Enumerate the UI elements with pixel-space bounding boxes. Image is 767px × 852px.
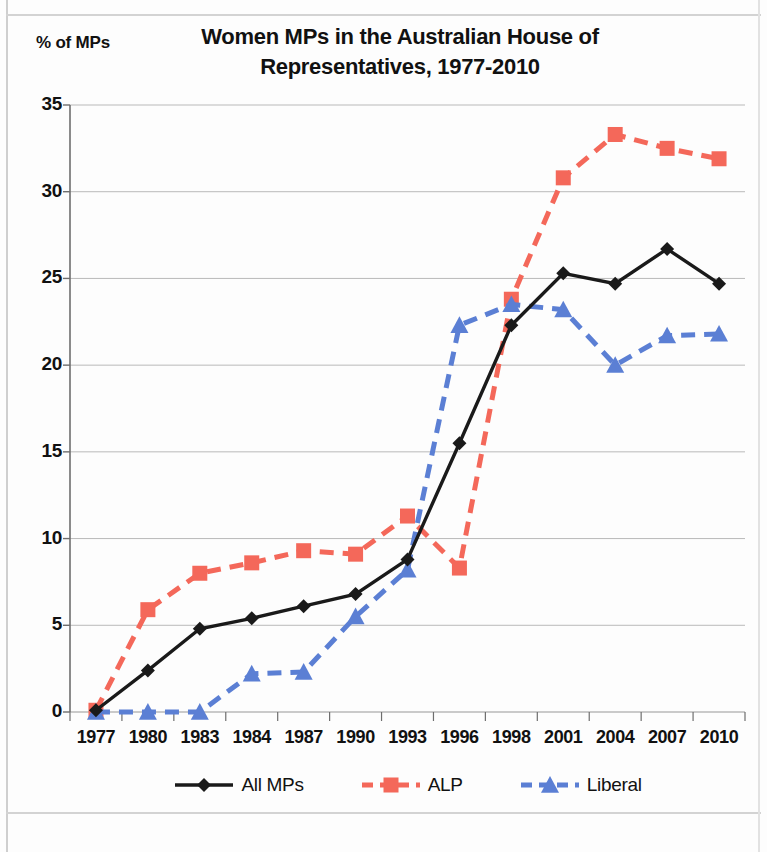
data-point-marker [712, 151, 727, 166]
y-axis-tick-label: 25 [18, 266, 62, 288]
series-line [96, 249, 719, 710]
y-axis-tick-label: 15 [18, 440, 62, 462]
data-point-marker [658, 327, 676, 344]
series-liberal [87, 295, 728, 719]
data-point-marker [197, 778, 211, 792]
data-point-marker [608, 127, 623, 142]
y-axis-tick-label: 30 [18, 180, 62, 202]
legend-swatch-square-icon [360, 774, 422, 796]
legend-swatch-diamond-icon [173, 774, 235, 796]
series-alp [88, 127, 726, 718]
legend-swatch-triangle-icon [519, 774, 581, 796]
chart-page: % of MPs Women MPs in the Australian Hou… [0, 0, 767, 852]
legend-label: All MPs [241, 774, 303, 796]
data-point-marker [192, 566, 207, 581]
data-point-marker [556, 170, 571, 185]
legend-label: Liberal [587, 774, 642, 796]
series-all-mps [89, 242, 726, 717]
data-point-marker [348, 547, 363, 562]
data-point-marker [244, 555, 259, 570]
legend-item-alp[interactable]: ALP [360, 774, 463, 796]
page-border-right [758, 0, 760, 852]
page-border-bottom [6, 812, 761, 814]
data-point-marker [297, 599, 311, 613]
data-point-marker [296, 543, 311, 558]
page-border-top [6, 14, 761, 16]
data-point-marker [452, 436, 466, 450]
data-point-marker [383, 778, 398, 793]
y-axis-tick-label: 0 [18, 700, 62, 722]
chart-canvas [70, 105, 745, 712]
y-axis-tick-labels: 05101520253035 [12, 105, 62, 712]
axes [63, 105, 745, 721]
x-axis-tick-labels: 1977198019831984198719901993199619982001… [70, 727, 745, 757]
y-axis-tick-label: 35 [18, 93, 62, 115]
series-line [96, 134, 719, 710]
chart-title-line-2: Representatives, 1977-2010 [120, 52, 680, 82]
legend-item-all-mps[interactable]: All MPs [173, 774, 303, 796]
data-point-marker [245, 611, 259, 625]
y-axis-tick-label: 20 [18, 353, 62, 375]
data-point-marker [660, 141, 675, 156]
y-axis-tick-label: 5 [18, 613, 62, 635]
data-point-marker [140, 602, 155, 617]
plot-area [70, 105, 745, 712]
page-border-left [6, 0, 8, 852]
legend-label: ALP [428, 774, 463, 796]
data-point-marker [400, 509, 415, 524]
legend-item-liberal[interactable]: Liberal [519, 774, 642, 796]
data-point-marker [452, 561, 467, 576]
chart-title-line-1: Women MPs in the Australian House of [120, 22, 680, 52]
gridlines [70, 105, 745, 712]
chart-legend: All MPsALPLiberal [70, 768, 745, 802]
y-axis-label: % of MPs [36, 33, 110, 53]
chart-title: Women MPs in the Australian House of Rep… [120, 22, 680, 82]
x-axis-tick-label: 2010 [689, 727, 749, 748]
y-axis-tick-label: 10 [18, 527, 62, 549]
